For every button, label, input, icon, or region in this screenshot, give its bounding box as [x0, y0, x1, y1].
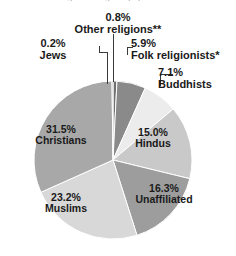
slice-label-christians: 31.5% Christians: [18, 124, 104, 147]
slice-name-christians: Christians: [18, 135, 104, 146]
slice-label-muslims: 23.2% Muslims: [26, 192, 106, 215]
slice-label-jews: 0.2% Jews: [16, 38, 90, 62]
slice-name-other-religions: Other religions**: [0, 24, 236, 36]
slice-name-unaffiliated: Unaffiliated: [118, 194, 210, 205]
slice-name-folk-religionists: Folk religionists*: [131, 50, 235, 62]
slice-label-other-religions: 0.8% Other religions**: [0, 12, 236, 36]
slice-name-buddhists: Buddhists: [158, 79, 236, 91]
slice-name-jews: Jews: [16, 50, 90, 62]
slice-label-buddhists: 7.1% Buddhists: [158, 67, 236, 91]
slice-label-unaffiliated: 16.3% Unaffiliated: [118, 183, 210, 206]
slice-name-muslims: Muslims: [26, 203, 106, 214]
pie-slices: [34, 81, 192, 239]
slice-label-hindus: 15.0% Hindus: [122, 127, 184, 150]
pie-chart-figure: global religious population 0.8% Other r…: [0, 0, 236, 256]
slice-name-hindus: Hindus: [122, 138, 184, 149]
slice-label-folk-religionists: 5.9% Folk religionists*: [131, 38, 235, 62]
leader-jews: [99, 46, 107, 84]
